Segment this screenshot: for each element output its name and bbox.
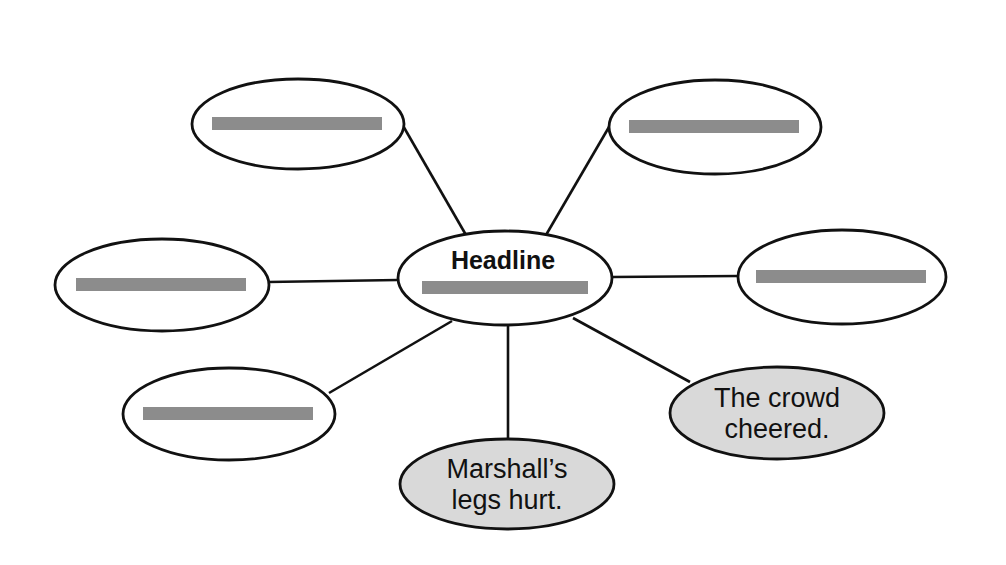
node-text-line: legs hurt. <box>451 485 562 515</box>
connector-right <box>612 276 738 277</box>
connector-left <box>268 280 398 282</box>
node-bottom-right: The crowdcheered. <box>670 367 884 459</box>
node-left <box>55 239 269 331</box>
word-web-diagram: Marshall’slegs hurt.The crowdcheered. He… <box>0 0 1006 565</box>
connector-top-right <box>546 127 609 235</box>
node-text-line: The crowd <box>714 383 840 413</box>
blank-answer-bar <box>76 278 246 291</box>
node-text-line: Marshall’s <box>446 454 567 484</box>
blank-answer-bar <box>212 117 382 130</box>
center-node: Headline <box>398 231 612 325</box>
node-bottom-left <box>123 368 335 460</box>
node-right <box>738 230 946 324</box>
blank-answer-bar <box>756 270 926 283</box>
node-text-line: cheered. <box>724 414 829 444</box>
node-bottom-mid: Marshall’slegs hurt. <box>400 439 614 529</box>
connector-top-left <box>402 124 466 235</box>
connector-bottom-left <box>329 321 452 393</box>
blank-answer-bar <box>143 407 313 420</box>
connector-bottom-right <box>573 318 690 382</box>
node-top-right <box>609 80 821 174</box>
center-title: Headline <box>451 246 555 274</box>
blank-answer-bar <box>629 120 799 133</box>
center-blank-bar <box>422 281 588 294</box>
node-top-left <box>192 79 404 169</box>
